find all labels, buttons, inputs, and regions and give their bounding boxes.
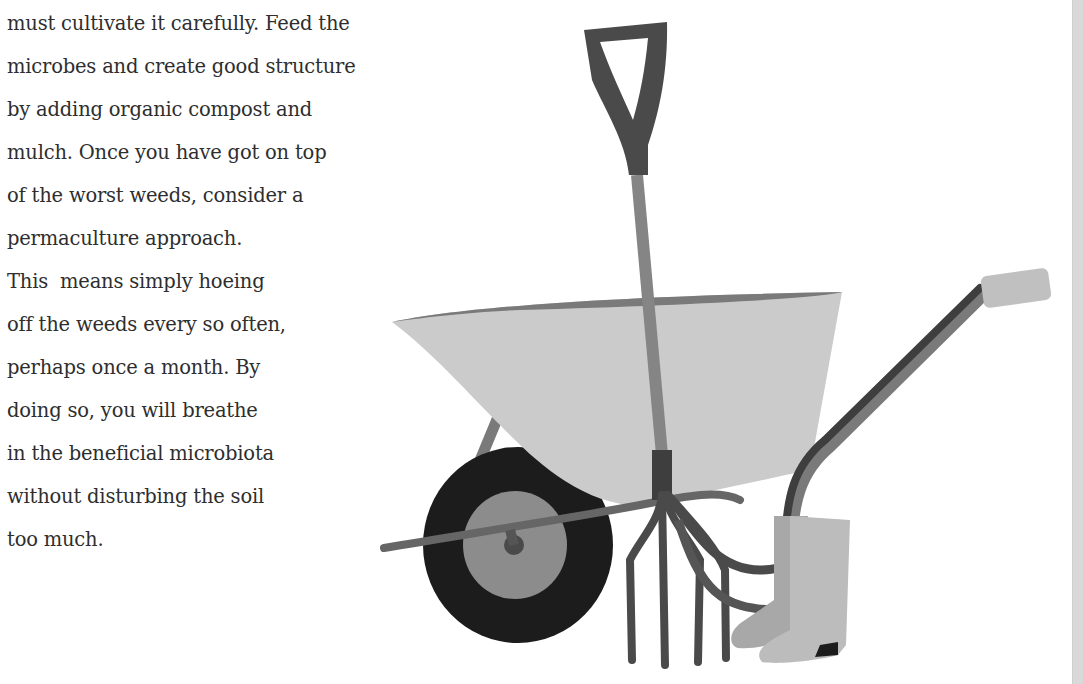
text-line: of the worst weeds, consider a (7, 174, 407, 217)
article-paragraph: must cultivate it carefully. Feed the mi… (7, 2, 407, 561)
wellington-boots-icon (731, 516, 850, 663)
document-page: must cultivate it carefully. Feed the mi… (0, 0, 1072, 684)
text-line: off the weeds every so often, (7, 303, 407, 346)
text-line: must cultivate it carefully. Feed the (7, 2, 407, 45)
garden-tools-illustration (370, 0, 1070, 684)
vertical-scrollbar[interactable] (1072, 0, 1083, 684)
text-line: in the beneficial microbiota (7, 432, 407, 475)
wheelbarrow-icon (384, 267, 1052, 643)
text-line: doing so, you will breathe (7, 389, 407, 432)
text-line: by adding organic compost and (7, 88, 407, 131)
text-line: microbes and create good structure (7, 45, 407, 88)
text-line: too much. (7, 518, 407, 561)
text-line: without disturbing the soil (7, 475, 407, 518)
text-line: perhaps once a month. By (7, 346, 407, 389)
text-line: permaculture approach. (7, 217, 407, 260)
text-line: mulch. Once you have got on top (7, 131, 407, 174)
text-line: This means simply hoeing (7, 260, 407, 303)
